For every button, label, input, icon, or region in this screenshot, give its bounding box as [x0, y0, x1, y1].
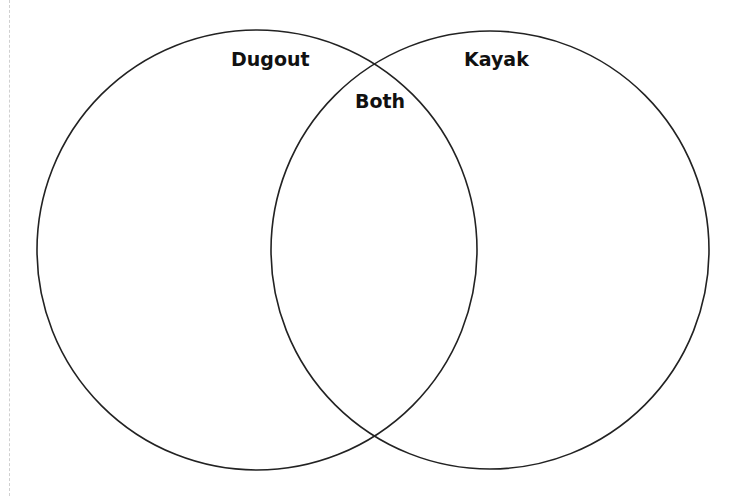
page-edge-dashed-line: [9, 0, 10, 496]
venn-diagram: Dugout Kayak Both: [0, 0, 748, 496]
set-label-kayak: Kayak: [464, 48, 529, 70]
intersection-label-both: Both: [355, 90, 405, 112]
venn-circles: [0, 0, 748, 496]
circle-dugout: [37, 30, 477, 470]
set-label-dugout: Dugout: [231, 48, 310, 70]
circle-kayak: [271, 31, 709, 469]
